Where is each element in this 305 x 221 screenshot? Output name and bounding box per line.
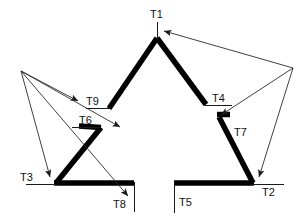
label-t1: T1 [150,8,163,20]
label-t8: T8 [113,198,126,210]
edge-t9-t1 [109,38,157,109]
star-diagram: T1 T9 T6 T4 T7 T3 T2 T8 T5 [0,0,305,221]
edge-t1-t4 [157,38,206,105]
arrow-to-t2 [259,68,293,177]
arrow-to-t6 [21,71,120,127]
arrow-to-t3 [21,71,50,177]
leader-arrows-left [21,71,128,196]
arrow-to-t8 [21,71,128,196]
label-t6: T6 [79,114,92,126]
figure-canvas: T1 T9 T6 T4 T7 T3 T2 T8 T5 [0,0,305,221]
label-t3: T3 [20,171,33,183]
label-t5: T5 [179,196,192,208]
arrow-to-t7 [221,68,293,115]
edge-t6-t3 [56,128,101,184]
label-t4: T4 [212,92,225,104]
leader-arrows-right [164,31,293,177]
label-t7: T7 [234,126,247,138]
label-t2: T2 [262,186,275,198]
star-outline [54,38,254,183]
label-t9: T9 [86,95,99,107]
arrow-to-t1 [164,31,293,68]
